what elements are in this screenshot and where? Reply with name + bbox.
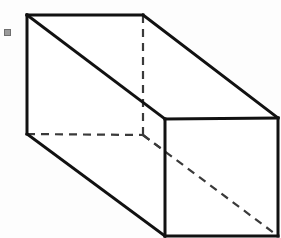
corner-speck-mark bbox=[4, 29, 11, 36]
front-top-horizontal-edge bbox=[165, 118, 278, 119]
figure-canvas: Rectangular prism with dashed hidden edg… bbox=[0, 0, 281, 238]
rectangular-prism-diagram bbox=[0, 0, 281, 238]
hidden-horizontal-edge bbox=[27, 134, 143, 135]
front-face bbox=[165, 118, 278, 236]
